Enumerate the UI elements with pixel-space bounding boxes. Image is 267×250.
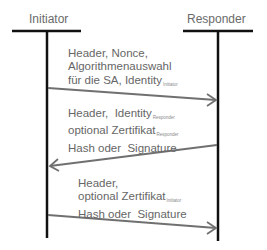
message-3-line-3: Hash oder Signature [78,208,187,221]
message-1-line-1: Header, Nonce, [68,47,178,60]
message-2-line-2: optional ZertifikatResponder [68,124,179,141]
initiator-label: Initiator [29,12,68,26]
message-2-text: Header, IdentityResponder optional Zerti… [68,107,179,155]
subscript: Responder [153,115,175,120]
message-3-text: Header, optional ZertifikatInitiator Has… [78,177,187,221]
message-3-line-1: Header, [78,177,187,190]
message-1-line-2: Algorithmenauswahl [68,60,178,73]
subscript: Responder [157,132,179,137]
message-1-text: Header, Nonce, Algorithmenauswahl für di… [68,47,178,91]
subscript: Initiator [163,82,178,87]
message-1-line-3: für die SA, IdentityInitiator [68,74,178,91]
responder-label: Responder [187,12,246,26]
subscript: Initiator [167,198,182,203]
message-2-line-3: Hash oder Signature [68,142,179,155]
message-3-line-2: optional ZertifikatInitiator [78,190,187,207]
message-2-line-1: Header, IdentityResponder [68,107,179,124]
